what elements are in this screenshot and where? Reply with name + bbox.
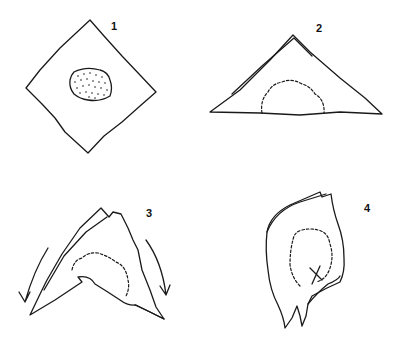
x-mark (310, 266, 322, 284)
folding-diagram (0, 0, 398, 347)
step-3-drawing (19, 208, 170, 319)
cone-packet-outline (266, 192, 344, 328)
cone-inner-flap-edge (267, 194, 326, 232)
filling-stipple (74, 72, 108, 99)
hidden-filling-outline (290, 229, 332, 286)
arrow-right-down (146, 240, 170, 295)
hidden-filling-outline (262, 80, 324, 113)
step-label-3: 3 (146, 207, 152, 219)
step-label-1: 1 (111, 20, 117, 32)
triangle-wrapper (210, 35, 382, 115)
step-4-drawing (266, 192, 344, 328)
arrow-left-down (19, 248, 48, 302)
step-1-drawing (26, 20, 156, 153)
hidden-filling-outline (72, 253, 129, 296)
diamond-wrapper (26, 20, 156, 153)
step-label-2: 2 (316, 22, 322, 34)
step-label-4: 4 (364, 202, 370, 214)
step-2-drawing (210, 35, 382, 115)
